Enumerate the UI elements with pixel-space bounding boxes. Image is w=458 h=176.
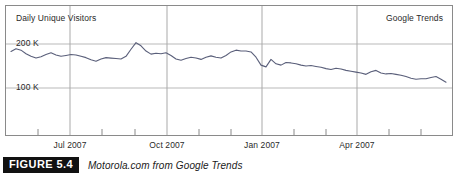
line-chart-svg — [5, 5, 453, 136]
x-tick-label-apr-2007: Apr 2007 — [339, 140, 374, 150]
y-tick-label-100k: 100 K — [16, 82, 39, 92]
chart-source-label: Google Trends — [386, 13, 443, 23]
x-axis-label-row: Jul 2007 Oct 2007 Jan 2007 Apr 2007 — [5, 140, 453, 152]
figure-number-badge: FIGURE 5.4 — [3, 157, 79, 173]
y-tick-label-200k: 200 K — [16, 38, 39, 48]
x-tick-label-oct-2007: Oct 2007 — [149, 140, 184, 150]
figure-caption-text: Motorola.com from Google Trends — [88, 160, 243, 171]
x-tick-label-jul-2007: Jul 2007 — [54, 140, 87, 150]
vertical-gridlines — [70, 6, 357, 135]
chart-plot-area: Daily Unique Visitors Google Trends 200 … — [5, 5, 453, 136]
x-tick-label-jan-2007: Jan 2007 — [244, 140, 280, 150]
axis-minor-ticks — [38, 129, 421, 135]
trend-line-series — [11, 43, 446, 83]
chart-y-axis-title: Daily Unique Visitors — [16, 13, 96, 23]
horizontal-gridlines — [6, 44, 452, 88]
figure-caption: FIGURE 5.4 Motorola.com from Google Tren… — [3, 157, 243, 173]
figure-container: Daily Unique Visitors Google Trends 200 … — [0, 0, 458, 176]
